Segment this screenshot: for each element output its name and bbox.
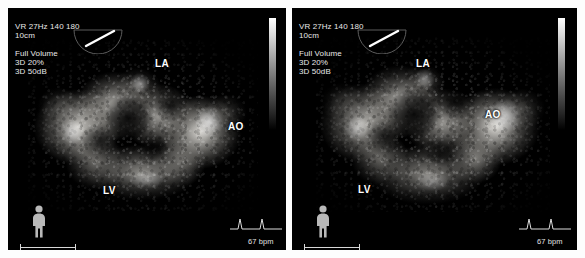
overlay-3d-dynamic-range: 3D 50dB xyxy=(15,67,47,77)
overlay-depth-right: 10cm xyxy=(299,31,319,41)
heart-rate-left: 67 bpm xyxy=(248,237,274,246)
standing-body-icon-left xyxy=(22,204,56,240)
grayscale-reference-bar-left xyxy=(269,18,276,130)
volume-render-sector-left xyxy=(26,36,258,211)
overlay-depth: 10cm xyxy=(15,31,35,41)
ecg-trace-left xyxy=(230,214,282,236)
tissue-vignette-left xyxy=(26,36,258,211)
annotation-lv-right: LV xyxy=(358,184,371,195)
grayscale-reference-bar-right xyxy=(558,18,565,130)
annotation-la-right: LA xyxy=(416,58,430,69)
heart-rate-right: 67 bpm xyxy=(537,237,563,246)
ultrasound-viewport: VR 27Hz 140 180 10cm Full Volume 3D 20% … xyxy=(0,0,585,258)
ultrasound-panel-right[interactable]: VR 27Hz 140 180 10cm Full Volume 3D 20% … xyxy=(292,8,577,250)
ultrasound-panel-left[interactable]: VR 27Hz 140 180 10cm Full Volume 3D 20% … xyxy=(8,8,286,250)
standing-body-icon-right xyxy=(306,204,340,240)
scale-ruler-left xyxy=(20,244,76,250)
ecg-trace-right xyxy=(519,214,571,236)
annotation-ao-right: AO xyxy=(485,109,501,120)
annotation-lv-left: LV xyxy=(103,185,116,196)
annotation-la-left: LA xyxy=(155,58,169,69)
volume-render-sector-right xyxy=(314,34,550,212)
tissue-vignette-right xyxy=(314,34,550,212)
scale-ruler-right xyxy=(304,244,360,250)
cut-plane-orientation-icon xyxy=(70,28,126,54)
cut-plane-orientation-icon-right xyxy=(354,28,410,54)
overlay-3d-dynamic-range-right: 3D 50dB xyxy=(299,67,331,77)
annotation-ao-left: AO xyxy=(228,121,244,132)
